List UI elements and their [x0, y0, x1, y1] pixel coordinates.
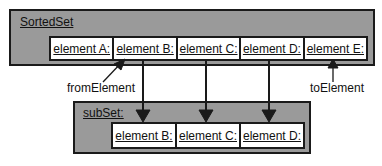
arrow-b-head-icon	[136, 110, 150, 122]
to-element-arrowhead-icon	[328, 59, 338, 68]
arrows-overlay	[0, 0, 382, 166]
arrow-c-head-icon	[199, 110, 213, 122]
arrow-d-head-icon	[262, 110, 276, 122]
